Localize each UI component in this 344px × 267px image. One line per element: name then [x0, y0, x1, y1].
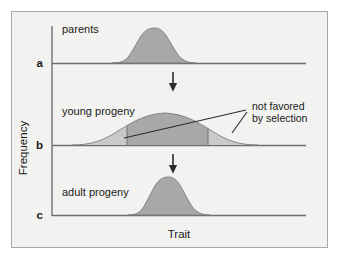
curve-adult-progeny: [128, 177, 210, 215]
diagram-canvas: Frequency a parents b young progeny: [0, 0, 344, 267]
panel-marker-b: b: [36, 139, 43, 151]
panel-marker-c: c: [37, 209, 44, 221]
figure-root: Frequency a parents b young progeny: [0, 0, 344, 267]
annotation-line-1: not favored: [252, 100, 305, 112]
panel-label-adult-progeny: adult progeny: [62, 186, 129, 198]
panel-label-parents: parents: [62, 23, 99, 35]
x-axis-label: Trait: [168, 228, 191, 240]
curve-parents: [112, 28, 196, 63]
panel-label-young-progeny: young progeny: [62, 105, 135, 117]
y-axis-label: Frequency: [17, 121, 29, 176]
annotation-leader-right: [232, 112, 247, 133]
panel-marker-a: a: [37, 57, 44, 69]
annotation-line-2: by selection: [252, 112, 308, 124]
